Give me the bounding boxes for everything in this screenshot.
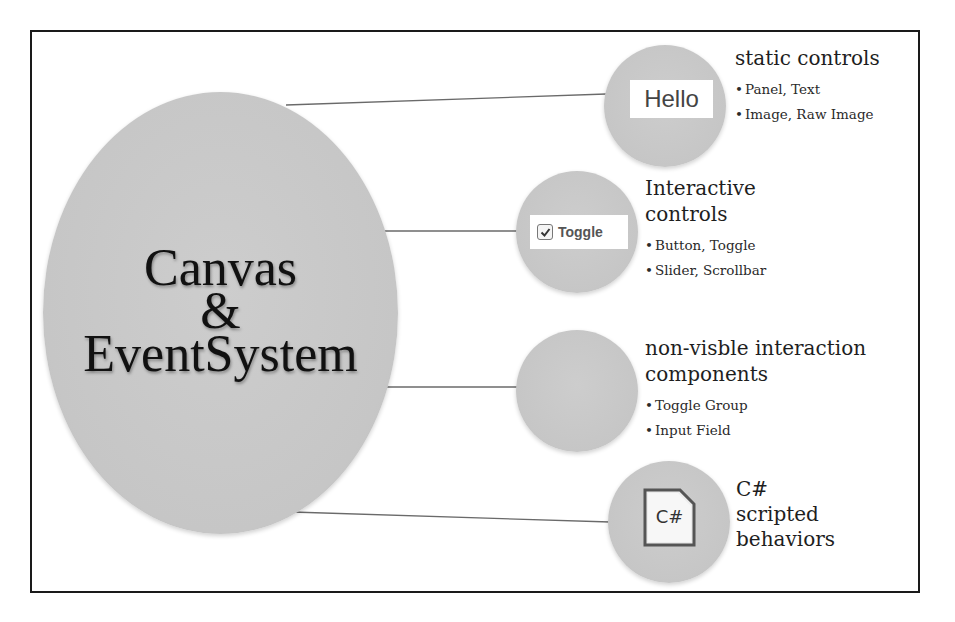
nonvisible-components-list: Toggle Group Input Field (645, 393, 866, 443)
interactive-controls-title-line2: controls (645, 201, 766, 227)
toggle-checkbox-icon: Toggle (530, 215, 628, 249)
static-controls-title: static controls (735, 45, 880, 71)
checkmark-icon (537, 224, 553, 240)
nonvisible-components-label: non-visble interaction components Toggle… (645, 335, 866, 443)
list-item: Toggle Group (645, 393, 866, 418)
list-item: Image, Raw Image (735, 102, 880, 127)
csharp-file-icon: C# (643, 488, 696, 547)
center-label: Canvas & EventSystem (43, 92, 398, 534)
nonvisible-components-node (516, 330, 638, 452)
static-controls-label: static controls Panel, Text Image, Raw I… (735, 45, 880, 127)
hello-text: Hello (644, 85, 699, 113)
nonvisible-components-title-line2: components (645, 361, 866, 387)
csharp-icon-text: C# (643, 506, 696, 527)
center-line-eventsystem: EventSystem (83, 325, 357, 382)
interactive-controls-list: Button, Toggle Slider, Scrollbar (645, 233, 766, 283)
list-item: Slider, Scrollbar (645, 258, 766, 283)
scripted-behaviors-label: C# scripted behaviors (736, 477, 835, 552)
interactive-controls-label: Interactive controls Button, Toggle Slid… (645, 175, 766, 283)
toggle-text: Toggle (558, 224, 603, 240)
scripted-behaviors-title-line3: behaviors (736, 527, 835, 552)
list-item: Button, Toggle (645, 233, 766, 258)
list-item: Input Field (645, 418, 866, 443)
list-item: Panel, Text (735, 77, 880, 102)
scripted-behaviors-title-line1: C# (736, 477, 835, 502)
interactive-controls-title-line1: Interactive (645, 175, 766, 201)
nonvisible-components-title-line1: non-visble interaction (645, 335, 866, 361)
scripted-behaviors-title-line2: scripted (736, 502, 835, 527)
hello-text-icon: Hello (630, 80, 713, 118)
static-controls-list: Panel, Text Image, Raw Image (735, 77, 880, 127)
